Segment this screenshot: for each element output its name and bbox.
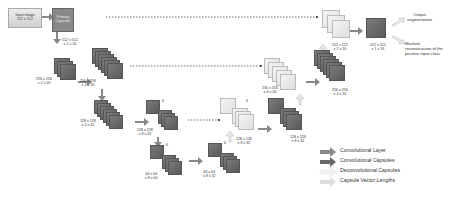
enc1b-dims: 256 x 256 x 4 x 16	[80, 79, 96, 87]
input-image-box: Input image512 x 512	[8, 8, 42, 28]
dec1a-count: 6	[246, 99, 248, 103]
final-dims: 512 x 512 x 1 x 16	[370, 43, 386, 51]
dec3-dims: 512 x 512 x 2 x 16	[332, 43, 348, 51]
dec2a-dims: 256 x 256 x 4 x 16	[262, 86, 278, 94]
legend-capsule-vector-lengths: Capsule Vector Lengths	[340, 177, 395, 183]
arrow-to-segmentation	[392, 18, 405, 26]
enc2a-dims: 128 x 128 x 4 x 32	[80, 119, 96, 127]
primary-line2: Capsules	[56, 19, 71, 23]
enc1a-dims: 256 x 256 x 2 x 16	[36, 77, 52, 85]
arrow-to-reconstruction	[392, 36, 405, 44]
enc3a-count: 6	[166, 143, 168, 147]
arrow-dec3	[349, 27, 363, 35]
input-line2: 512 x 512	[17, 17, 33, 21]
primary-capsules-box: PrimaryCapsules	[52, 8, 74, 32]
dec1a-dims: 128 x 128 x 8 x 32	[236, 137, 252, 145]
arrow-enc2	[135, 118, 149, 126]
enc3b-dims: 64 x 64 x 8 x 32	[203, 170, 216, 178]
legend-conv-layer: Convolutional Layer	[340, 147, 386, 153]
enc2b-dims: 128 x 128 x 8 x 32	[137, 128, 153, 136]
input-image-label: Input image512 x 512	[9, 13, 41, 21]
arrow-up-dec1	[226, 131, 234, 142]
dec1b-dims: 128 x 128 x 8 x 32	[290, 135, 306, 143]
output-segmentation-label: Output segmentation	[407, 12, 432, 22]
enc3a-dims: 64 x 64 x 8 x 64	[145, 172, 158, 180]
dec2b-dims: 256 x 256 x 4 x 16	[332, 88, 348, 96]
enc3b-count: 6	[224, 141, 226, 145]
arrow-dec1	[258, 125, 272, 133]
arrow-primary-down	[53, 31, 61, 44]
arrow-dec2	[306, 78, 320, 86]
output-reconstruction-label: Masked reconstruction of the positive in…	[405, 41, 443, 56]
arrow-enc3	[189, 157, 203, 165]
legend-conv-capsules: Convolutional Capsules	[340, 157, 395, 163]
arrow-up-dec2	[296, 94, 304, 105]
enc2b-count: 6	[162, 99, 164, 103]
primary-out-dims: 512 x 512 x 1 x 16	[62, 38, 78, 46]
legend-deconv-capsules: Deconvolutional Capsules	[340, 167, 400, 173]
primary-capsules-label: PrimaryCapsules	[53, 15, 73, 23]
